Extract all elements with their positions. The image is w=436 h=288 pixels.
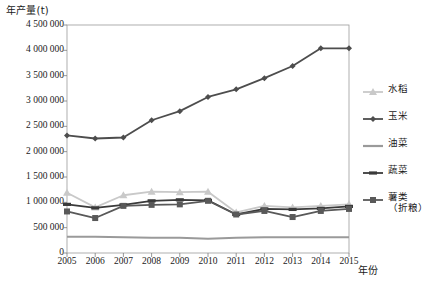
legend-item-玉米[interactable]: 玉米 <box>362 111 436 123</box>
plot-frame <box>67 25 349 253</box>
line-chart: 年产量(t) 年份 0500 0001 000 0001 500 0002 00… <box>0 0 436 288</box>
legend-item-水稻[interactable]: 水稻 <box>362 84 436 96</box>
data-point-marker <box>177 201 183 207</box>
data-point-marker <box>205 198 211 204</box>
data-point-marker <box>346 45 352 51</box>
data-point-marker <box>233 86 239 92</box>
data-point-marker <box>64 208 70 214</box>
legend-marker-icon <box>362 192 384 204</box>
legend-symbol-icon <box>362 194 384 206</box>
chart-legend: 水稻玉米油菜蔬菜薯类（折粮） <box>362 84 436 219</box>
legend-label: 薯类（折粮） <box>388 192 428 213</box>
data-point-marker <box>369 171 377 174</box>
legend-label: 油菜 <box>388 138 408 149</box>
legend-symbol-icon <box>362 86 384 98</box>
data-point-marker <box>176 198 184 201</box>
legend-marker-icon <box>362 138 384 150</box>
data-point-marker <box>91 206 99 209</box>
series-line <box>67 237 349 239</box>
legend-label: 玉米 <box>388 111 408 122</box>
legend-label-sub: （折粮） <box>388 203 428 214</box>
legend-marker-icon <box>362 111 384 123</box>
data-point-marker <box>92 215 98 221</box>
data-point-marker <box>318 208 324 214</box>
legend-symbol-icon <box>362 167 384 179</box>
data-point-marker <box>370 116 376 122</box>
data-point-marker <box>290 214 296 220</box>
legend-symbol-icon <box>362 113 384 125</box>
data-point-marker <box>63 203 71 206</box>
data-point-marker <box>261 208 267 214</box>
series-line <box>67 48 349 138</box>
series-玉米 <box>64 45 352 141</box>
legend-label: 水稻 <box>388 84 408 95</box>
data-point-marker <box>346 206 352 212</box>
series-油菜 <box>67 237 349 239</box>
data-point-marker <box>233 211 239 217</box>
legend-marker-icon <box>362 84 384 96</box>
legend-item-蔬菜[interactable]: 蔬菜 <box>362 165 436 177</box>
data-point-marker <box>205 94 211 100</box>
data-point-marker <box>289 208 297 211</box>
data-point-marker <box>64 132 70 138</box>
legend-item-油菜[interactable]: 油菜 <box>362 138 436 150</box>
data-point-marker <box>177 108 183 114</box>
data-point-marker <box>370 197 376 203</box>
legend-marker-icon <box>362 165 384 177</box>
data-point-marker <box>92 135 98 141</box>
legend-item-薯类[interactable]: 薯类（折粮） <box>362 192 436 204</box>
data-point-marker <box>63 189 71 196</box>
data-point-marker <box>149 202 155 208</box>
legend-symbol-icon <box>362 140 384 152</box>
data-point-marker <box>261 75 267 81</box>
data-point-marker <box>120 203 126 209</box>
legend-label: 蔬菜 <box>388 165 408 176</box>
